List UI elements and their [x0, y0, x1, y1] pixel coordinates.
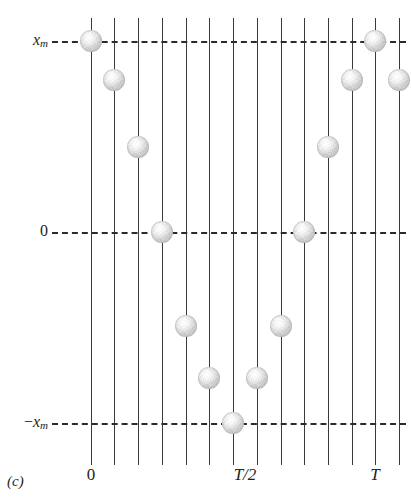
shm-position-figure: xm0−xm 0T/2T (c)	[0, 0, 411, 498]
ball-11	[317, 136, 339, 158]
ball-14	[388, 69, 410, 91]
ball-10	[293, 221, 315, 243]
x-label-half-T: T/2	[234, 466, 257, 483]
time-gridline-8	[281, 18, 282, 465]
ball-5	[175, 315, 197, 337]
time-gridline-4	[186, 18, 187, 465]
ball-13	[364, 30, 386, 52]
ball-12	[341, 69, 363, 91]
time-gridline-2	[138, 18, 139, 465]
x-label-T: T	[370, 466, 379, 483]
reference-line-xm	[52, 41, 406, 43]
time-gridline-10	[328, 18, 329, 465]
time-gridline-6	[233, 18, 234, 465]
time-gridline-12	[375, 18, 376, 465]
ball-9	[270, 315, 292, 337]
y-label-xm: xm	[33, 32, 48, 49]
panel-caption: (c)	[7, 474, 24, 489]
ball-8	[246, 367, 268, 389]
ball-4	[151, 221, 173, 243]
reference-line-zero	[52, 232, 406, 234]
y-label-zero: 0	[40, 223, 48, 239]
time-gridline-5	[209, 18, 210, 465]
ball-1	[80, 30, 102, 52]
x-label-zero: 0	[87, 466, 96, 483]
ball-2	[103, 69, 125, 91]
ball-3	[127, 136, 149, 158]
y-label-neg-xm: −xm	[24, 414, 48, 431]
time-gridline-7	[257, 18, 258, 465]
ball-7	[222, 412, 244, 434]
time-gridline-0	[91, 18, 92, 465]
ball-6	[198, 367, 220, 389]
